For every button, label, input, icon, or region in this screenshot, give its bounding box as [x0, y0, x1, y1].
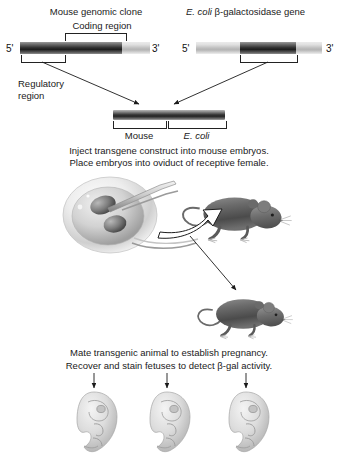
- mouse-injected-illustration: [183, 198, 292, 243]
- ecoli-upstream-segment: [196, 42, 240, 54]
- ooplasm: [72, 187, 144, 245]
- fetus-tail: [84, 446, 98, 448]
- fetus-limb-bud-hind: [93, 438, 102, 446]
- fetus-head-fold: [240, 400, 260, 421]
- oviduct-transfer-arrow: [158, 209, 222, 238]
- micropipette-icon: [108, 181, 178, 212]
- fetus-body: [77, 392, 117, 452]
- male-pronucleus: [88, 192, 118, 217]
- coding-region-label: Coding region: [22, 20, 182, 31]
- mouse-snout: [279, 220, 284, 223]
- mouse-ear: [258, 201, 271, 213]
- ecoli-gene-title: E. coli β-galactosidase gene: [186, 6, 305, 17]
- construct-mouse-label: Mouse: [113, 130, 165, 141]
- fusion-construct-bar: [113, 110, 225, 120]
- lacz-leader-line: [174, 62, 268, 104]
- polar-body: [78, 205, 83, 210]
- mouse-body: [203, 198, 266, 231]
- mouse-foot-hind: [208, 238, 217, 243]
- regulatory-region-label-line2: region: [18, 90, 44, 101]
- mouse2-whiskers: [283, 316, 293, 324]
- fetus-head-fold: [161, 400, 181, 421]
- mouse-whiskers: [281, 216, 292, 225]
- fetus-limb-bud-hind: [166, 438, 175, 446]
- ecoli-gene-3prime: 3': [326, 43, 333, 54]
- fetus-limb-bud-fore: [94, 424, 103, 436]
- construct-ecoli-label: E. coli: [168, 130, 225, 141]
- mouse-clone-title: Mouse genomic clone: [0, 6, 192, 17]
- fetus-head-fold: [88, 400, 108, 421]
- coding-region-bracket: [65, 33, 127, 41]
- stained-fetus-2: [150, 392, 190, 452]
- construct-mouse-bracket: [113, 121, 167, 129]
- lacz-coding-segment: [240, 42, 296, 54]
- mouse-head: [249, 203, 283, 230]
- mouse2-eye: [275, 313, 278, 316]
- fetus-limb-bud-fore: [167, 424, 176, 436]
- mouse2-foreleg: [250, 325, 255, 335]
- mouse-foot-front: [240, 238, 249, 243]
- stained-fetus-3: [229, 392, 269, 452]
- mouse2-ear: [263, 302, 274, 312]
- holding-pipette-icon: [132, 238, 198, 248]
- mouse-genomic-clone-bar: [20, 42, 150, 54]
- inject-step-line2: Place embryos into oviduct of receptive …: [0, 157, 338, 168]
- transgenic-mouse-diagram: Mouse genomic clone Coding region E. col…: [0, 0, 338, 464]
- cortex-highlight: [86, 194, 89, 197]
- stained-fetus-1: [77, 392, 117, 452]
- regulatory-region-bracket: [21, 55, 66, 63]
- mouse2-body: [216, 299, 270, 329]
- mate-step-line1: Mate transgenic animal to establish preg…: [0, 347, 338, 358]
- female-pronucleus: [102, 213, 128, 234]
- mouse-pregnant-illustration: [198, 299, 293, 339]
- fetus-body: [229, 392, 269, 452]
- mouse-tail: [183, 208, 209, 226]
- ecoli-gene-5prime: 5': [182, 43, 189, 54]
- mouse-clone-3prime: 3': [152, 43, 159, 54]
- fetus-tail: [157, 446, 171, 448]
- mouse2-tail: [198, 309, 221, 325]
- fetus-tail: [236, 446, 250, 448]
- zona-pellucida: [63, 177, 157, 253]
- mate-step-line2: Recover and stain fetuses to detect β-ga…: [0, 360, 338, 371]
- mouse-regulatory-segment: [20, 42, 64, 54]
- mouse2-foot-hind: [220, 335, 228, 339]
- lacz-coding-bracket: [240, 55, 298, 63]
- inject-step-line1: Inject transgene construct into mouse em…: [0, 145, 338, 156]
- oocyte-injection-illustration: [63, 177, 198, 253]
- ecoli-gene-title-rest: β-galactosidase gene: [212, 6, 305, 17]
- fetus-limb-bud-hind: [245, 438, 254, 446]
- mouse2-head: [256, 305, 286, 329]
- ecoli-gene-title-genus: E. coli: [186, 6, 212, 17]
- mouse2-ear-far: [255, 301, 264, 309]
- ecoli-gene-bar: [196, 42, 322, 54]
- fetus-body: [150, 392, 190, 452]
- regulatory-region-label-line1: Regulatory: [18, 78, 64, 89]
- ecoli-downstream-segment: [296, 42, 322, 54]
- mouse-eye: [271, 213, 274, 216]
- mouse-downstream-segment: [122, 42, 150, 54]
- mouse-foreleg: [242, 227, 248, 239]
- mouse-coding-segment: [64, 42, 122, 54]
- fetus-eye: [97, 405, 105, 412]
- construct-ecoli-bracket: [168, 121, 227, 129]
- mouse-clone-5prime: 5': [6, 43, 13, 54]
- pregnancy-arrow: [190, 236, 236, 290]
- mouse2-foot-front: [248, 335, 256, 339]
- mouse-hindleg: [210, 227, 220, 239]
- fetus-limb-bud-fore: [246, 424, 255, 436]
- fetus-eye: [170, 405, 178, 412]
- fetus-eye: [249, 405, 257, 412]
- mouse2-hindleg: [222, 325, 231, 335]
- mouse-ear-far: [248, 199, 258, 208]
- mouse2-snout: [282, 319, 286, 321]
